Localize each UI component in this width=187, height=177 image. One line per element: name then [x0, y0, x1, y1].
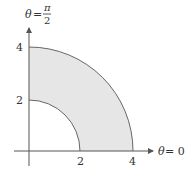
tick-y-4: 4 — [16, 41, 23, 54]
tick-y-2: 2 — [16, 94, 23, 107]
label-theta-pi-half-symbol: θ — [25, 8, 32, 21]
polar-region-diagram: 2 4 2 4 θ = 0 θ = π 2 — [0, 0, 187, 177]
tick-x-4: 4 — [129, 155, 136, 168]
label-theta-pi-half-eq: = — [33, 8, 42, 21]
shaded-region — [29, 47, 133, 151]
label-theta-zero-symbol: θ — [158, 145, 165, 158]
tick-x-2: 2 — [77, 155, 84, 168]
label-pi-numerator: π — [43, 2, 51, 13]
label-two-denominator: 2 — [44, 15, 50, 26]
label-theta-zero-value: = 0 — [165, 145, 185, 158]
